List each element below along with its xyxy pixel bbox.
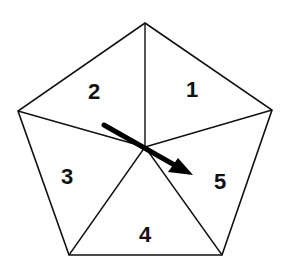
section-label-5: 5: [214, 171, 226, 193]
section-label-3: 3: [61, 166, 73, 188]
spinner-diagram: 1 2 3 4 5: [0, 0, 285, 273]
section-label-2: 2: [88, 81, 100, 103]
section-label-4: 4: [139, 224, 151, 246]
section-label-1: 1: [186, 79, 198, 101]
